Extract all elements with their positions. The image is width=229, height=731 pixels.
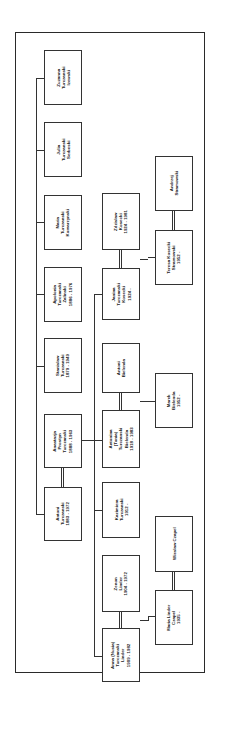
- person-label: Janina Turczanski Kosecki 1924 -: [111, 283, 132, 306]
- person-label: Antoni Turczanski 1883 - 1972: [55, 502, 71, 525]
- person-box-zuzanna[interactable]: Zuzanna Turczanski Izewski: [44, 50, 82, 105]
- connector: [94, 510, 102, 511]
- person-box-antoni-turczanski[interactable]: Antoni Turczanski 1883 - 1972: [44, 487, 82, 541]
- connector: [140, 259, 148, 260]
- person-box-apolonia[interactable]: Apolonia Turczanski Zalinski 1886 - 1976: [44, 267, 82, 322]
- gen2-trunk-line: [94, 294, 95, 656]
- person-box-andrzej[interactable]: Andrzej Stramowski: [155, 156, 193, 211]
- spouse-link: [119, 393, 122, 410]
- person-box-anastazja[interactable]: Anastazja Prostyn Turczanski 1888 - 1963: [44, 414, 82, 468]
- spouse-link: [119, 612, 122, 628]
- person-box-stanislaw[interactable]: Stanislaw Turczanski 1879 - 1949: [44, 338, 82, 393]
- spouse-link: [172, 572, 175, 590]
- person-label: Maria Turczanski Komarzynski: [55, 209, 71, 236]
- person-box-zenon[interactable]: Zenon Linder 1904 - 1972: [102, 555, 140, 612]
- person-label: Anastazja Prostyn Turczanski 1888 - 1963: [53, 429, 74, 452]
- person-label: Stanislaw Turczanski 1879 - 1949: [55, 354, 71, 377]
- person-label: Andrzej Stramowski: [169, 171, 179, 196]
- person-box-kazimiera[interactable]: Kazimiera Turczanski 1912 -: [102, 482, 140, 538]
- person-label: Teresa Kosecki Stramowski 1952 -: [166, 242, 182, 274]
- connector: [82, 440, 94, 441]
- connector: [140, 401, 155, 402]
- person-box-anna[interactable]: Anna (Nusia) Turczanski Linder 1909 - 19…: [102, 628, 140, 682]
- person-box-teresa[interactable]: Teresa Kosecki Stramowski 1952 -: [155, 230, 193, 285]
- person-label: Zuzanna Turczanski Izewski: [55, 66, 71, 89]
- person-label: Anna (Nusia) Turczanski Linder 1909 - 19…: [111, 641, 132, 668]
- person-label: Zenon Linder 1904 - 1972: [113, 572, 129, 595]
- connector: [140, 620, 148, 621]
- person-box-janina[interactable]: Janina Turczanski Kosecki 1924 -: [102, 268, 140, 320]
- person-box-julia[interactable]: Julia Turczanski Serbeski: [44, 122, 82, 177]
- connector: [94, 440, 102, 441]
- connector: [148, 257, 155, 258]
- person-label: Antoni Bielenda: [116, 359, 126, 377]
- person-box-wieslaw[interactable]: Wieslaw Czapel: [155, 516, 193, 572]
- connector: [94, 294, 102, 295]
- spouse-link: [119, 250, 122, 268]
- spouse-link: [61, 468, 64, 487]
- person-label: Wieslaw Czapel: [171, 528, 176, 561]
- person-label: Julia Turczanski Serbeski: [55, 138, 71, 161]
- person-box-antoni-bielenda[interactable]: Antoni Bielenda: [102, 343, 140, 393]
- person-box-maria-linder[interactable]: Maria Linder Czapel 1935 -: [155, 590, 193, 645]
- person-label: Maria Linder Czapel 1935 -: [166, 604, 182, 630]
- person-box-zdzislaw[interactable]: Zdzislaw Kosecki 1924 - 1981: [102, 193, 140, 250]
- spouse-link: [172, 211, 175, 230]
- person-box-antonina[interactable]: Antonina (Tonia) Turczanski Bielenda 191…: [102, 410, 140, 468]
- connector: [148, 616, 155, 617]
- person-label: Apolonia Turczanski Zalinski 1886 - 1976: [53, 283, 74, 306]
- connector: [94, 656, 102, 657]
- gen1-trunk-line: [36, 78, 37, 515]
- person-label: Kazimiera Turczanski 1912 -: [113, 499, 129, 522]
- person-label: Marek Bielenda 1952 -: [166, 391, 182, 409]
- person-label: Zdzislaw Kosecki 1924 - 1981: [113, 210, 129, 233]
- person-label: Antonina (Tonia) Turczanski Bielenda 191…: [108, 427, 134, 450]
- person-box-marek[interactable]: Marek Bielenda 1952 -: [155, 373, 193, 428]
- person-box-maria[interactable]: Maria Turczanski Komarzynski: [44, 195, 82, 250]
